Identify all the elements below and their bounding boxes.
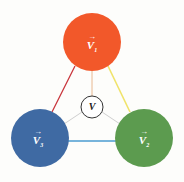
node-top-subscript: 1: [94, 47, 97, 53]
spoke-left: [64, 112, 82, 124]
spoke-right: [102, 112, 120, 124]
center-node-label: V: [81, 96, 103, 118]
node-top-label: → V1: [77, 34, 107, 53]
node-right-label: → V2: [129, 129, 159, 148]
node-left-subscript: 3: [40, 142, 43, 148]
vector-triangle-diagram: [0, 0, 184, 182]
edge-top-right: [108, 66, 130, 112]
edge-top-left: [52, 66, 75, 112]
node-right-subscript: 2: [146, 142, 149, 148]
node-left-label: → V3: [23, 129, 53, 148]
